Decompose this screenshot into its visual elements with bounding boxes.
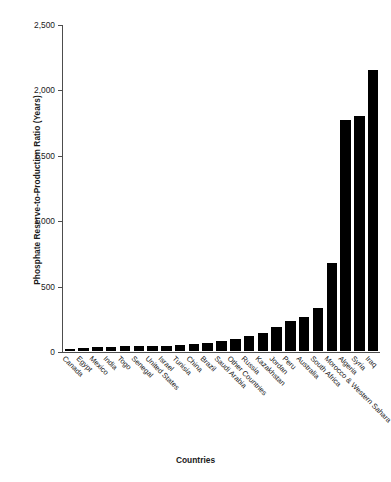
bar[interactable] <box>202 343 212 351</box>
bar-slot <box>215 24 229 351</box>
bar-slot <box>325 24 339 351</box>
bar-slot <box>201 24 215 351</box>
y-tick-mark <box>58 221 62 222</box>
y-tick-mark <box>58 156 62 157</box>
bar-slot <box>270 24 284 351</box>
bar[interactable] <box>299 317 309 351</box>
y-tick-label: 2,500 <box>34 20 55 30</box>
y-tick-label: 2,000 <box>34 85 55 95</box>
bar-slot <box>159 24 173 351</box>
bar[interactable] <box>340 120 350 351</box>
y-tick-label: 1,000 <box>34 216 55 226</box>
bar[interactable] <box>106 347 116 351</box>
bar-slot <box>311 24 325 351</box>
x-axis-title: Countries <box>0 455 391 465</box>
y-tick-label: 0 <box>50 347 55 357</box>
bar-slot <box>173 24 187 351</box>
bar[interactable] <box>354 116 364 351</box>
bar[interactable] <box>258 333 268 351</box>
bar-slot <box>104 24 118 351</box>
bar[interactable] <box>216 341 226 351</box>
bar-slot <box>91 24 105 351</box>
phosphate-reserve-bar-chart: Phosphate Reserve-to-Production Ratio (Y… <box>0 0 391 482</box>
bar[interactable] <box>230 339 240 351</box>
bar[interactable] <box>285 321 295 351</box>
y-tick-mark <box>58 287 62 288</box>
bar-slot <box>339 24 353 351</box>
bar[interactable] <box>189 344 199 351</box>
bar[interactable] <box>327 263 337 351</box>
bar[interactable] <box>134 346 144 351</box>
bar-slot <box>297 24 311 351</box>
x-tick-label-group: CanadaEgyptMexicoIndiaTogoSenegalUnited … <box>63 354 380 464</box>
bar[interactable] <box>92 347 102 351</box>
x-tick-label: Togo <box>116 354 134 372</box>
bar-group <box>63 24 380 351</box>
bar-slot <box>118 24 132 351</box>
x-axis-line <box>62 352 380 353</box>
y-axis-title: Phosphate Reserve-to-Production Ratio (Y… <box>32 65 42 315</box>
bar-slot <box>256 24 270 351</box>
bar[interactable] <box>78 348 88 351</box>
y-tick-mark <box>58 90 62 91</box>
bar-slot <box>366 24 380 351</box>
bar-slot <box>77 24 91 351</box>
y-tick-mark <box>58 352 62 353</box>
bar[interactable] <box>175 345 185 351</box>
bar[interactable] <box>244 336 254 351</box>
bar-slot <box>242 24 256 351</box>
bar[interactable] <box>120 346 130 351</box>
bar[interactable] <box>313 308 323 351</box>
bar[interactable] <box>161 346 171 351</box>
bar[interactable] <box>368 70 378 351</box>
bar-slot <box>187 24 201 351</box>
bar[interactable] <box>65 349 75 351</box>
bar[interactable] <box>147 346 157 351</box>
bar-slot <box>352 24 366 351</box>
plot-area: 05001,0001,5002,0002,500 <box>62 25 380 352</box>
bar-slot <box>284 24 298 351</box>
bar-slot <box>228 24 242 351</box>
y-tick-mark <box>58 25 62 26</box>
y-tick-label: 1,500 <box>34 151 55 161</box>
bar-slot <box>146 24 160 351</box>
bar-slot <box>132 24 146 351</box>
bar[interactable] <box>271 327 281 351</box>
y-tick-label: 500 <box>41 282 55 292</box>
bar-slot <box>63 24 77 351</box>
